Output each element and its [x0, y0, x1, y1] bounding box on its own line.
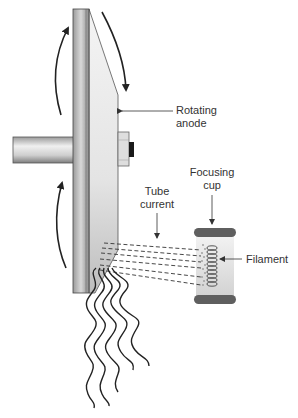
rotating-anode-label-group: Rotating anode — [122, 104, 217, 129]
x-ray-waves — [85, 268, 149, 408]
rotation-arrow-top-left — [56, 28, 68, 115]
x-ray-tube-diagram: Rotating anode — [0, 0, 298, 418]
focusing-cup-label-line1: Focusing — [190, 166, 235, 178]
rotating-anode-disc — [73, 9, 134, 293]
tube-current-label-line2: current — [140, 198, 174, 210]
rotating-anode-label-line2: anode — [176, 117, 207, 129]
rotation-arrow-bottom-left — [57, 183, 66, 268]
focusing-cup-label-group: Focusing cup — [190, 166, 235, 224]
tube-current-label-group: Tube current — [140, 185, 174, 238]
focusing-cup-label-line2: cup — [203, 179, 221, 191]
anode-shaft — [13, 137, 75, 163]
filament-label: Filament — [246, 253, 288, 265]
rotation-arrow-bottom-extra — [51, 205, 55, 240]
tube-current-label-line1: Tube — [145, 185, 170, 197]
rotating-anode-label-line1: Rotating — [176, 104, 217, 116]
